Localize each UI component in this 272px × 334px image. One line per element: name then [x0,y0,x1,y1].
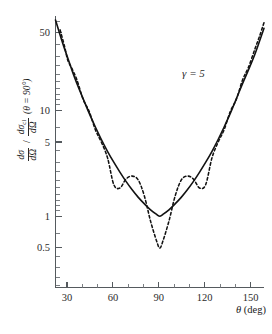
x-tick-label-60: 60 [108,292,119,303]
x-axis-tick-labels: 30 60 90 120 150 [62,292,259,303]
x-axis-title: θ (deg) [236,305,266,316]
y-tick-label-10: 10 [40,105,51,116]
x-axis-title-unit: (deg) [244,304,266,315]
y-axis-major-ticks [56,32,62,247]
x-tick-label-30: 30 [62,292,73,303]
axis-lines [56,16,265,288]
y-axis-minor-ticks [56,22,60,286]
y-tick-label-0-5: 0.5 [37,242,50,253]
y-tick-label-5: 5 [45,137,50,148]
y-axis-title-denominator-1: dΩ [29,147,39,163]
x-tick-label-150: 150 [243,292,259,303]
y-axis-title-condition: (θ = 90°) [23,78,33,113]
x-tick-label-90: 90 [154,292,165,303]
x-tick-label-120: 120 [197,292,213,303]
gamma-annotation: γ = 5 [182,67,205,79]
x-axis-major-ticks [67,282,251,288]
y-axis-title-numerator-2: dσcl [17,118,28,136]
y-axis-title-numerator-1: dσ [17,148,28,161]
y-axis-title-numerator-2-base: dσ [16,125,26,134]
y-tick-label-50: 50 [40,27,51,38]
classical-reference-curve [56,20,265,216]
figure-panel: 50 10 5 1 0.5 30 60 90 [0,0,272,334]
y-tick-label-1: 1 [45,211,50,222]
y-axis-title: dσ dΩ / dσcl dΩ (θ = 90°) [15,41,41,201]
y-axis-title-separator: / [23,140,33,143]
y-axis-title-denominator-2: dΩ [29,119,39,135]
y-axis-title-fraction-1: dσ dΩ [17,147,39,163]
y-axis-title-fraction-2: dσcl dΩ [17,118,39,136]
y-axis-title-numerator-2-subscript: cl [20,120,27,125]
